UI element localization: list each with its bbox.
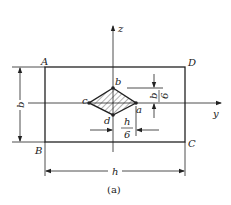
y-axis-label: y — [212, 108, 219, 119]
kern-label-c: c — [82, 95, 88, 106]
dim-b6-fraction: b 6 — [148, 90, 170, 102]
dim-h6-numerator: h — [124, 116, 130, 127]
point-d — [111, 113, 115, 117]
kern-label-d: d — [104, 115, 110, 126]
dim-h6-fraction: h 6 — [121, 116, 133, 140]
dim-h6-denominator: 6 — [124, 129, 131, 140]
kern-label-b: b — [115, 76, 121, 87]
z-axis-label: z — [117, 23, 124, 34]
corner-label-A: A — [40, 56, 48, 67]
dim-b6-numerator: b — [148, 93, 159, 99]
kern-diagram: z y A D B C b a d c b h b 6 h 6 (a) — [0, 0, 231, 205]
dim-b-label: b — [15, 102, 26, 108]
kern-region — [89, 88, 136, 115]
dim-b6-denominator: 6 — [159, 92, 170, 99]
corner-label-C: C — [188, 138, 196, 149]
corner-label-B: B — [34, 145, 42, 156]
point-c — [87, 101, 91, 105]
corner-label-D: D — [187, 57, 196, 68]
kern-label-a: a — [136, 104, 142, 115]
figure-caption: (a) — [107, 184, 121, 195]
dim-h-label: h — [112, 166, 118, 177]
